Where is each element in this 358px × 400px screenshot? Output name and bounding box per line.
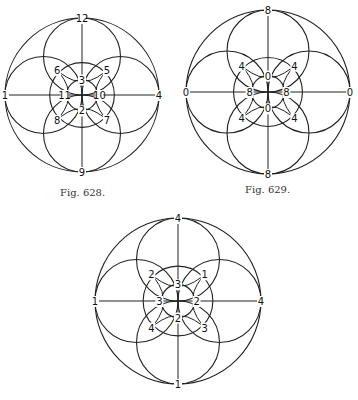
label-lower-right: 3	[201, 323, 207, 334]
label-lower-left: 8	[54, 115, 60, 126]
label-inner-right: 2	[193, 296, 199, 307]
figure-fig629: 880044440088	[182, 5, 354, 180]
label-right: 0	[347, 87, 353, 98]
label-top: 12	[76, 13, 89, 24]
label-inner-bottom: 2	[79, 105, 85, 116]
label-inner-top: 0	[265, 71, 271, 82]
caption-fig-629: Fig. 629.	[245, 184, 290, 195]
label-left: 0	[183, 87, 189, 98]
label-inner-top: 3	[79, 75, 85, 86]
label-upper-right: 5	[104, 65, 110, 76]
label-lower-right: 4	[291, 113, 297, 124]
label-upper-right: 1	[201, 269, 207, 280]
label-inner-top: 3	[175, 279, 181, 290]
label-right: 4	[258, 296, 264, 307]
label-inner-left: 8	[246, 87, 252, 98]
label-lower-left: 4	[238, 113, 244, 124]
label-left: 1	[2, 90, 8, 101]
figure-fig630: 411421433232	[91, 213, 265, 390]
figure-fig628: 129146587321110	[1, 13, 163, 178]
label-inner-left: 3	[156, 296, 162, 307]
label-upper-left: 4	[238, 61, 244, 72]
label-bottom: 8	[265, 169, 271, 180]
label-inner-right: 10	[93, 90, 106, 101]
caption-fig-628: Fig. 628.	[60, 187, 105, 198]
label-upper-left: 2	[148, 269, 154, 280]
label-top: 8	[265, 5, 271, 16]
label-upper-right: 4	[291, 61, 297, 72]
label-bottom: 1	[175, 379, 181, 390]
label-inner-bottom: 2	[175, 313, 181, 324]
label-inner-left: 11	[58, 90, 71, 101]
label-inner-right: 8	[283, 87, 289, 98]
label-lower-right: 7	[104, 115, 110, 126]
label-bottom: 9	[79, 167, 85, 178]
label-lower-left: 4	[148, 323, 154, 334]
label-right: 4	[156, 90, 162, 101]
label-inner-bottom: 0	[265, 103, 271, 114]
label-left: 1	[92, 296, 98, 307]
diagram-canvas: 129146587321110880044440088411421433232	[0, 0, 358, 400]
label-top: 4	[175, 213, 181, 224]
label-upper-left: 6	[54, 65, 60, 76]
